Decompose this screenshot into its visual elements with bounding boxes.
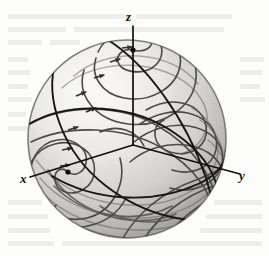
axis-label-x: x — [20, 172, 27, 185]
equilibrium-x — [65, 169, 70, 174]
equilibrium-z — [130, 47, 135, 52]
sphere-phase-portrait — [0, 0, 269, 256]
axis-label-y: y — [239, 169, 245, 182]
figure-page: x y z — [0, 0, 269, 256]
axis-label-z: z — [126, 10, 131, 23]
